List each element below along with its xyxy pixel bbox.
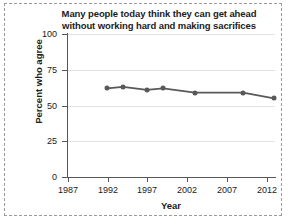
y-axis-line — [67, 33, 68, 178]
y-tick-label-75: 75 — [23, 65, 57, 75]
y-tick-label-50: 50 — [23, 101, 57, 111]
y-tick-label-100: 100 — [23, 29, 57, 39]
x-axis-label: Year — [111, 200, 231, 211]
x-tick-label-2007: 2007 — [207, 185, 247, 195]
x-tick-1992 — [108, 178, 109, 182]
plot-area — [68, 34, 275, 177]
y-tick-50 — [62, 106, 67, 107]
y-tick-25 — [62, 141, 67, 142]
chart-title-line-1: Many people today think they can get ahe… — [39, 8, 279, 20]
x-tick-label-1992: 1992 — [88, 185, 128, 195]
y-tick-label-25: 25 — [23, 136, 57, 146]
chart-title: Many people today think they can get ahe… — [39, 8, 279, 31]
y-tick-label-0: 0 — [23, 172, 57, 182]
x-tick-label-2012: 2012 — [247, 185, 287, 195]
x-tick-label-2002: 2002 — [167, 185, 207, 195]
x-tick-label-1997: 1997 — [127, 185, 167, 195]
chart-title-line-2: without working hard and making sacrific… — [39, 20, 279, 32]
x-axis-line — [67, 177, 276, 178]
x-tick-1987 — [68, 178, 69, 182]
x-tick-1997 — [147, 178, 148, 182]
x-tick-2002 — [187, 178, 188, 182]
x-tick-label-1987: 1987 — [48, 185, 88, 195]
x-tick-2007 — [227, 178, 228, 182]
chart-frame: Many people today think they can get ahe… — [4, 3, 282, 216]
y-axis-label: Percent who agree — [33, 22, 44, 142]
y-tick-0 — [62, 177, 67, 178]
y-tick-100 — [62, 34, 67, 35]
series-line — [68, 34, 275, 177]
x-tick-2012 — [267, 178, 268, 182]
y-tick-75 — [62, 70, 67, 71]
